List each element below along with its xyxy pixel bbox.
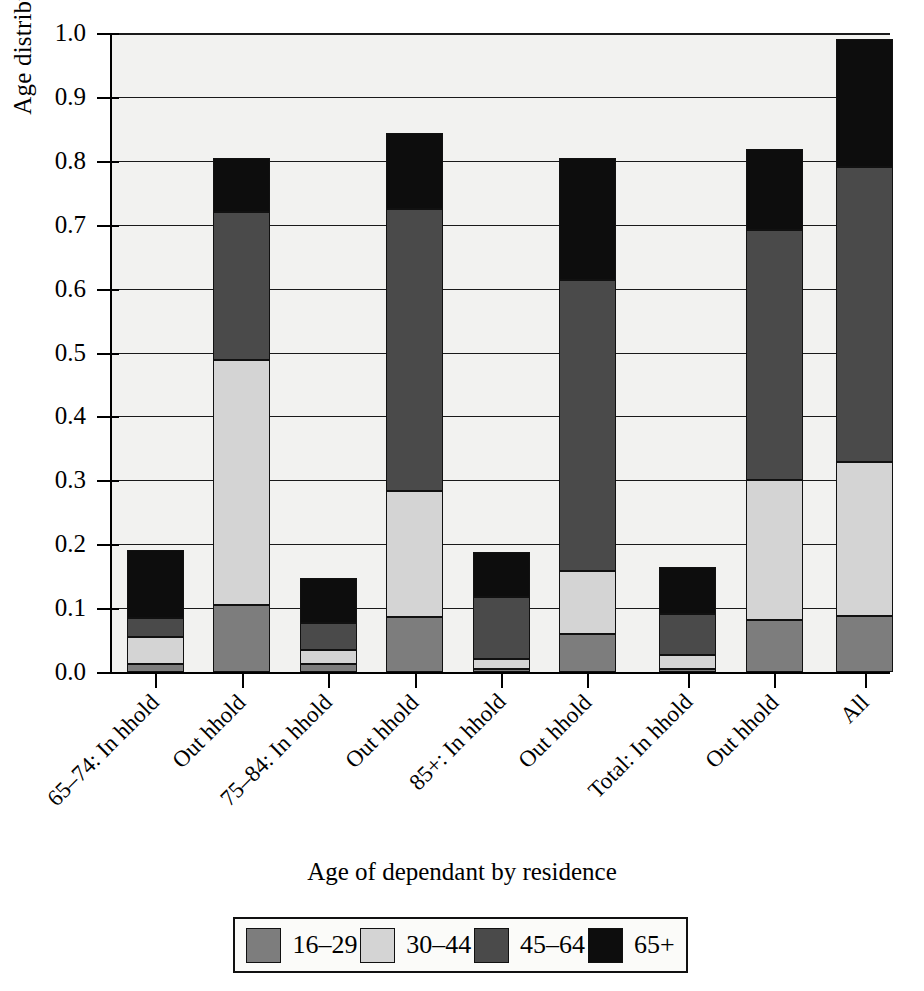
legend-label: 16–29	[292, 932, 357, 958]
legend-label: 65+	[634, 932, 675, 958]
bar-segment	[213, 360, 270, 605]
y-tick-mark-inner	[112, 353, 119, 355]
bar-segment	[559, 158, 616, 281]
stacked-bar	[659, 33, 716, 672]
bar-segment	[659, 614, 716, 655]
bar-segment	[473, 659, 530, 669]
x-axis-title: Age of dependant by residence	[0, 858, 924, 886]
y-tick-mark-inner	[112, 161, 119, 163]
bar-segment	[300, 623, 357, 650]
bar-segment	[127, 664, 184, 672]
bar-segment	[213, 158, 270, 212]
bar-segment	[559, 634, 616, 672]
y-tick-mark-inner	[112, 672, 119, 674]
x-tick-label: Out hhold	[168, 690, 250, 772]
stacked-bar	[300, 33, 357, 672]
legend-swatch	[246, 928, 281, 963]
stacked-bar	[473, 33, 530, 672]
x-tick-mark	[328, 672, 330, 688]
plot-area	[110, 33, 890, 674]
y-tick-mark	[97, 672, 110, 674]
x-tick-label: All	[836, 690, 873, 727]
y-tick-label: 0.6	[20, 276, 86, 301]
bar-segment	[746, 230, 803, 480]
bar-segment	[127, 550, 184, 618]
y-tick-mark	[97, 33, 110, 35]
bar-segment	[386, 617, 443, 672]
stacked-bar	[559, 33, 616, 672]
y-tick-mark	[97, 353, 110, 355]
y-tick-mark-inner	[112, 33, 119, 35]
stacked-bar	[127, 33, 184, 672]
x-tick-label: Out hhold	[701, 690, 783, 772]
bar-segment	[213, 605, 270, 672]
bar-segment	[473, 552, 530, 597]
bar-segment	[386, 491, 443, 618]
y-tick-mark	[97, 416, 110, 418]
legend-swatch	[588, 928, 623, 963]
bar-segment	[836, 39, 893, 167]
x-tick-mark	[688, 672, 690, 688]
y-tick-label: 0.7	[20, 212, 86, 237]
x-axis-tick-labels: 65–74: In hholdOut hhold75–84: In hholdO…	[110, 690, 910, 830]
legend-item: 45–64	[474, 928, 585, 963]
bar-segment	[659, 655, 716, 669]
y-tick-mark-inner	[112, 480, 119, 482]
y-tick-label: 0.3	[20, 467, 86, 492]
y-tick-label: 0.9	[20, 84, 86, 109]
y-tick-mark-inner	[112, 416, 119, 418]
legend-swatch	[360, 928, 395, 963]
y-tick-label: 0.4	[20, 403, 86, 428]
bar-segment	[836, 462, 893, 615]
bar-segment	[213, 212, 270, 360]
bar-segment	[746, 620, 803, 672]
y-tick-mark-inner	[112, 544, 119, 546]
x-tick-label: Out hhold	[341, 690, 423, 772]
bar-segment	[127, 618, 184, 637]
bar-segment	[746, 480, 803, 619]
bar-segment	[300, 650, 357, 663]
y-tick-label: 0.8	[20, 148, 86, 173]
bar-segment	[659, 567, 716, 614]
bar-segment	[300, 664, 357, 672]
y-tick-label: 1.0	[20, 20, 86, 45]
bar-segment	[746, 149, 803, 230]
y-tick-mark	[97, 225, 110, 227]
y-tick-mark-inner	[112, 289, 119, 291]
x-tick-mark	[587, 672, 589, 688]
stacked-bar	[836, 33, 893, 672]
x-tick-mark	[501, 672, 503, 688]
legend-label: 45–64	[520, 932, 585, 958]
legend-item: 65+	[588, 928, 675, 963]
bar-segment	[473, 597, 530, 660]
y-tick-mark-inner	[112, 225, 119, 227]
x-tick-mark	[242, 672, 244, 688]
bar-segment	[836, 167, 893, 462]
y-tick-label: 0.1	[20, 595, 86, 620]
x-tick-mark	[774, 672, 776, 688]
bar-segment	[836, 616, 893, 672]
y-tick-mark	[97, 289, 110, 291]
stacked-bar	[213, 33, 270, 672]
bar-segment	[127, 637, 184, 664]
bar-segment	[300, 578, 357, 623]
x-tick-mark	[415, 672, 417, 688]
stacked-bar	[746, 33, 803, 672]
y-tick-mark	[97, 480, 110, 482]
stacked-bar	[386, 33, 443, 672]
x-tick-label: Out hhold	[514, 690, 596, 772]
y-tick-mark-inner	[112, 97, 119, 99]
legend-swatch	[474, 928, 509, 963]
y-tick-mark	[97, 544, 110, 546]
bar-segment	[559, 280, 616, 571]
y-tick-mark	[97, 97, 110, 99]
y-tick-label: 0.0	[20, 659, 86, 684]
legend-item: 16–29	[246, 928, 357, 963]
y-tick-label: 0.5	[20, 340, 86, 365]
x-tick-label: Total: In hhold	[584, 690, 697, 803]
x-tick-label: 65–74: In hhold	[43, 690, 163, 810]
bar-segment	[559, 571, 616, 634]
y-tick-mark	[97, 161, 110, 163]
bar-segment	[386, 209, 443, 490]
bar-segment	[386, 133, 443, 210]
